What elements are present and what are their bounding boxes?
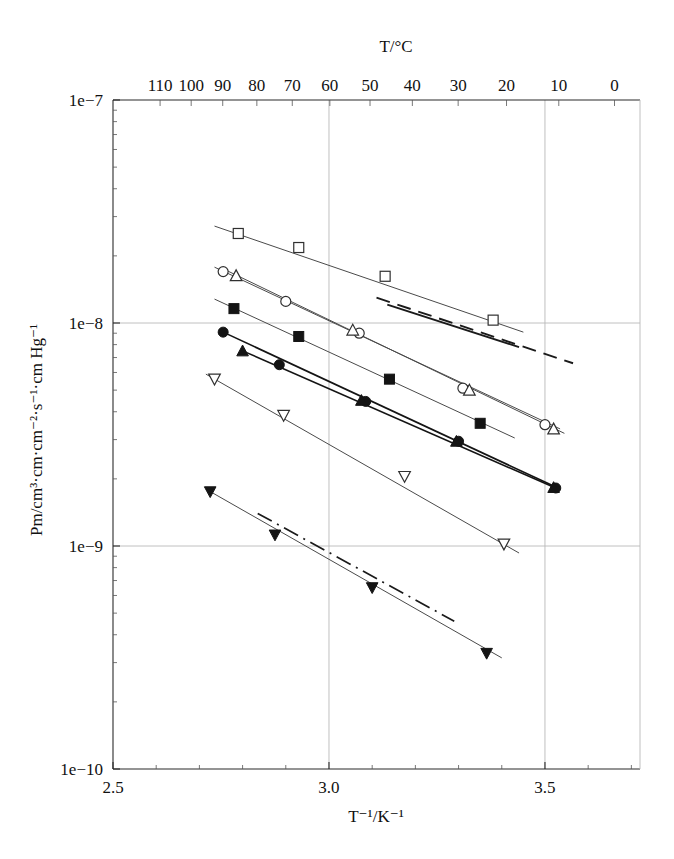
data-point-triangle-down-open	[209, 374, 221, 385]
data-point-circle-open	[540, 420, 550, 430]
top-tick-label: 70	[284, 76, 301, 95]
data-point-square-open	[488, 315, 498, 325]
top-tick-label: 100	[178, 76, 204, 95]
data-point-circle-open	[281, 296, 291, 306]
reference-line-dashdot-reference	[258, 513, 455, 621]
data-point-circle-filled	[274, 360, 284, 370]
data-point-triangle-down-open	[399, 471, 411, 482]
data-point-square-filled	[294, 331, 304, 341]
series-trendline-open-square	[215, 226, 524, 332]
x-tick-label: 2.5	[102, 778, 123, 797]
series-trendline-filled-triangle-up	[243, 351, 558, 489]
top-tick-label: 60	[321, 76, 338, 95]
axis-lines	[113, 100, 640, 769]
reference-lines-layer	[258, 298, 573, 622]
y-tick-label: 1e−8	[69, 314, 103, 333]
top-tick-label: 110	[148, 76, 173, 95]
data-point-square-filled	[229, 304, 239, 314]
top-tick-label: 50	[362, 76, 379, 95]
y-tick-label: 1e−7	[69, 91, 104, 110]
data-markers-layer	[204, 228, 560, 659]
data-point-triangle-down-filled	[366, 583, 378, 594]
top-tick-label: 10	[550, 76, 567, 95]
data-point-circle-filled	[218, 327, 228, 337]
top-tick-label: 40	[404, 76, 421, 95]
reference-line-dashed-reference	[377, 298, 574, 364]
y-tick-label: 1e−10	[60, 760, 103, 779]
x-tick-label: 3.0	[318, 778, 339, 797]
data-point-square-open	[380, 271, 390, 281]
data-point-triangle-down-filled	[269, 530, 281, 541]
series-trendline-filled-triangle-down	[206, 489, 502, 658]
top-tick-label: 0	[610, 76, 619, 95]
data-point-triangle-down-filled	[204, 487, 216, 498]
data-point-square-open	[233, 228, 243, 238]
data-point-triangle-up-filled	[237, 345, 249, 356]
arrhenius-permeability-chart: 1e−71e−81e−91e−102.53.03.511010090807060…	[0, 0, 674, 859]
x-tick-label: 3.5	[534, 778, 555, 797]
top-tick-label: 80	[248, 76, 265, 95]
series-trendline-filled-square	[215, 299, 515, 438]
data-point-square-filled	[475, 418, 485, 428]
data-point-triangle-down-open	[498, 539, 510, 550]
data-point-triangle-down-filled	[481, 648, 493, 659]
top-tick-label: 30	[450, 76, 467, 95]
gridlines	[113, 100, 640, 769]
data-point-square-filled	[384, 374, 394, 384]
y-tick-label: 1e−9	[69, 537, 103, 556]
chart-svg: 1e−71e−81e−91e−102.53.03.511010090807060…	[0, 0, 674, 859]
reference-line-solid-reference	[387, 305, 519, 348]
series-trendline-open-triangle-up	[223, 269, 564, 434]
top-tick-label: 90	[214, 76, 231, 95]
data-series-layer	[206, 226, 565, 658]
top-tick-label: 20	[498, 76, 515, 95]
data-point-circle-open	[218, 267, 228, 277]
series-trendline-filled-circle	[223, 332, 560, 489]
data-point-square-open	[294, 243, 304, 253]
tick-labels: 1e−71e−81e−91e−102.53.03.511010090807060…	[60, 76, 618, 797]
